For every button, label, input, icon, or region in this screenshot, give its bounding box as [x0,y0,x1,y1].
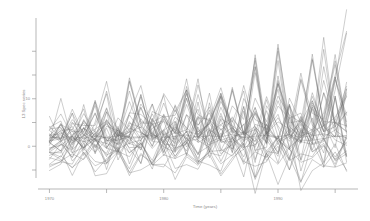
chart-figure: 010 197019801990 13 Spec series Time (ye… [0,0,370,221]
series-layer [49,10,346,194]
y-tick-label: 0 [28,144,31,149]
y-axis-ticks: 010 [25,51,36,170]
y-axis-title: 13 Spec series [21,89,26,119]
x-tick-label: 1980 [159,196,169,201]
spaghetti-line-chart: 010 197019801990 13 Spec series Time (ye… [0,0,370,221]
y-tick-label: 10 [25,96,30,101]
series-line [49,142,346,184]
series-line [49,44,346,142]
x-tick-label: 1990 [273,196,283,201]
x-axis-ticks: 197019801990 [45,189,335,201]
x-tick-label: 1970 [45,196,55,201]
x-axis-title: Time (years) [193,204,218,209]
series-line [49,49,346,142]
